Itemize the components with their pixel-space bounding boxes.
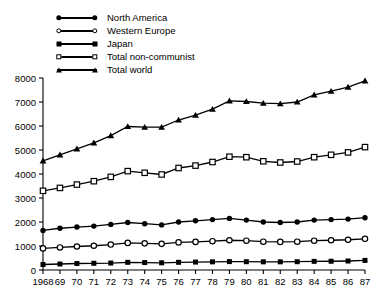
data-point [261, 259, 266, 264]
data-point [40, 228, 45, 233]
data-point [209, 106, 216, 112]
data-point [159, 172, 164, 177]
data-point [125, 220, 130, 225]
data-point [41, 262, 46, 267]
data-point [74, 261, 79, 266]
data-point [125, 260, 130, 265]
data-point [363, 258, 368, 263]
data-point [142, 170, 147, 175]
data-point [125, 240, 130, 245]
data-point [295, 219, 300, 224]
data-point [345, 237, 350, 242]
data-point [362, 215, 367, 220]
data-point [227, 238, 232, 243]
data-point [329, 259, 334, 264]
series-total-world [40, 78, 369, 164]
y-axis-tick-label: 2000 [2, 217, 36, 228]
data-point [57, 245, 62, 250]
y-axis-tick-label: 4000 [2, 169, 36, 180]
data-point [125, 168, 130, 173]
series-total-non-communist [40, 144, 367, 193]
data-point [193, 163, 198, 168]
data-point [278, 259, 283, 264]
x-axis-tick-label: 82 [275, 276, 286, 287]
x-axis-tick-label: 73 [122, 276, 133, 287]
data-point [244, 155, 249, 160]
data-point [193, 239, 198, 244]
series-japan [41, 258, 368, 267]
y-axis-tick-label: 1000 [2, 241, 36, 252]
data-point [362, 144, 367, 149]
y-axis-tick-label: 5000 [2, 145, 36, 156]
y-axis-tick-label: 6000 [2, 121, 36, 132]
x-axis-tick-label: 79 [224, 276, 235, 287]
data-point [108, 174, 113, 179]
data-point [362, 236, 367, 241]
data-point [91, 179, 96, 184]
chart-root: North AmericaWestern EuropeJapanTotal no… [0, 0, 378, 298]
x-axis-tick-label: 80 [241, 276, 252, 287]
data-point [91, 223, 96, 228]
x-axis-tick-label: 83 [292, 276, 303, 287]
data-point [328, 217, 333, 222]
data-point [345, 216, 350, 221]
data-point [227, 259, 232, 264]
x-axis-tick-label: 87 [360, 276, 371, 287]
x-axis-tick-label: 75 [156, 276, 167, 287]
y-axis-tick-label: 7000 [2, 97, 36, 108]
data-point [328, 152, 333, 157]
data-point [159, 222, 164, 227]
data-point [244, 217, 249, 222]
data-point [74, 182, 79, 187]
data-point [193, 260, 198, 265]
data-point [57, 226, 62, 231]
data-point [176, 260, 181, 265]
x-axis-tick-label: 76 [173, 276, 184, 287]
series-north-america [40, 215, 367, 233]
data-point [210, 217, 215, 222]
x-axis-tick-label: 77 [190, 276, 201, 287]
chart-plot-area [0, 0, 378, 298]
data-point [345, 150, 350, 155]
x-axis-tick-label: 71 [89, 276, 100, 287]
data-point [193, 218, 198, 223]
data-point [74, 244, 79, 249]
data-point [244, 259, 249, 264]
data-point [57, 185, 62, 190]
data-point [108, 261, 113, 266]
x-axis-tick-label: 69 [55, 276, 66, 287]
data-point [227, 216, 232, 221]
y-axis-tick-label: 8000 [2, 73, 36, 84]
data-point [159, 241, 164, 246]
data-point [244, 238, 249, 243]
x-axis-tick-label: 86 [343, 276, 354, 287]
data-point [210, 259, 215, 264]
data-point [210, 239, 215, 244]
data-point [40, 188, 45, 193]
data-point [108, 222, 113, 227]
data-point [176, 219, 181, 224]
data-point [91, 243, 96, 248]
x-axis-tick-label: 78 [207, 276, 218, 287]
data-point [295, 259, 300, 264]
data-point [142, 221, 147, 226]
data-point [362, 78, 369, 84]
data-point [57, 262, 62, 267]
series-western-europe [40, 236, 367, 251]
x-axis-tick-label: 72 [105, 276, 116, 287]
data-point [295, 159, 300, 164]
data-point [312, 259, 317, 264]
data-point [40, 246, 45, 251]
data-point [278, 160, 283, 165]
y-axis-tick-label: 3000 [2, 193, 36, 204]
data-point [176, 165, 181, 170]
data-point [176, 240, 181, 245]
data-point [107, 132, 114, 138]
x-axis-tick-label: 1968 [32, 276, 53, 287]
data-point [311, 238, 316, 243]
x-axis-tick-label: 85 [326, 276, 337, 287]
data-point [142, 260, 147, 265]
x-axis-tick-label: 84 [309, 276, 320, 287]
data-point [142, 241, 147, 246]
x-axis-tick-label: 74 [139, 276, 150, 287]
